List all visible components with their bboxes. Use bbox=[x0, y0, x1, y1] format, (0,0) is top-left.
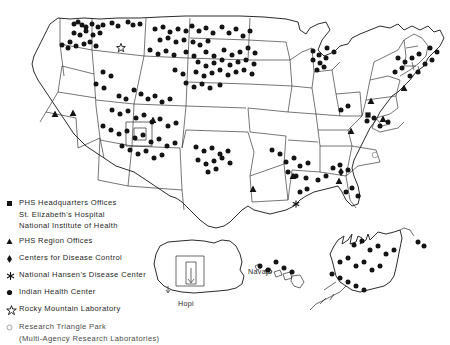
marker-indian-health-center bbox=[350, 186, 355, 191]
marker-indian-health-center bbox=[165, 144, 170, 149]
marker-indian-health-center bbox=[196, 158, 201, 163]
marker-indian-health-center bbox=[338, 276, 343, 281]
legend-label-hansens-disease-center: National Hansen's Disease Center bbox=[19, 270, 146, 281]
marker-indian-health-center bbox=[190, 24, 195, 29]
marker-indian-health-center bbox=[338, 163, 343, 168]
marker-indian-health-center bbox=[311, 49, 316, 54]
map-legend: PHS Headquarters Offices St. Elizabeth's… bbox=[6, 198, 196, 345]
marker-indian-health-center bbox=[311, 58, 316, 63]
marker-indian-health-center bbox=[191, 40, 196, 45]
marker-indian-health-center bbox=[202, 74, 207, 79]
marker-indian-health-center bbox=[84, 29, 89, 34]
marker-research-triangle-park bbox=[372, 152, 378, 158]
marker-indian-health-center bbox=[196, 60, 201, 65]
marker-indian-health-center bbox=[428, 46, 433, 51]
legend-item-phs-headquarters: PHS Headquarters Offices bbox=[6, 198, 196, 209]
marker-indian-health-center bbox=[315, 68, 320, 73]
circle-icon bbox=[6, 322, 19, 331]
marker-indian-health-center bbox=[164, 49, 169, 54]
marker-indian-health-center bbox=[94, 44, 99, 49]
marker-indian-health-center bbox=[278, 152, 283, 157]
marker-indian-health-center bbox=[128, 148, 133, 153]
marker-indian-health-center bbox=[212, 54, 217, 59]
marker-indian-health-center bbox=[354, 264, 359, 269]
marker-indian-health-center bbox=[66, 46, 71, 51]
marker-indian-health-center bbox=[192, 85, 197, 90]
marker-indian-health-center bbox=[346, 280, 351, 285]
marker-indian-health-center bbox=[253, 51, 258, 56]
marker-indian-health-center bbox=[244, 58, 249, 63]
legend-item-cdc: Centers for Disease Control bbox=[6, 253, 196, 264]
marker-indian-health-center bbox=[82, 42, 87, 47]
marker-phs-region-office bbox=[52, 111, 59, 117]
marker-indian-health-center bbox=[346, 168, 351, 173]
marker-indian-health-center bbox=[270, 148, 275, 153]
marker-indian-health-center bbox=[214, 167, 219, 172]
marker-indian-health-center bbox=[125, 129, 130, 134]
marker-indian-health-center bbox=[157, 137, 162, 142]
legend-label-cdc: Centers for Disease Control bbox=[19, 253, 122, 264]
marker-indian-health-center bbox=[242, 68, 247, 73]
marker-indian-health-center bbox=[324, 174, 329, 179]
marker-indian-health-center bbox=[384, 252, 389, 257]
marker-indian-health-center bbox=[248, 29, 253, 34]
marker-indian-health-center bbox=[403, 60, 408, 65]
marker-indian-health-center bbox=[96, 25, 101, 30]
marker-indian-health-center bbox=[227, 31, 232, 36]
marker-indian-health-center bbox=[344, 190, 349, 195]
marker-indian-health-center bbox=[173, 141, 178, 146]
marker-indian-health-center bbox=[110, 21, 115, 26]
marker-indian-health-center bbox=[78, 33, 83, 38]
legend-item-indian-health-center: Indian Health Center bbox=[6, 287, 196, 298]
marker-indian-health-center bbox=[141, 133, 146, 138]
marker-indian-health-center bbox=[168, 30, 173, 35]
marker-indian-health-center bbox=[204, 64, 209, 69]
marker-indian-health-center bbox=[211, 31, 216, 36]
asterisk-icon bbox=[6, 270, 19, 281]
legend-item-phs-region-offices: PHS Region Offices bbox=[6, 236, 196, 247]
marker-indian-health-center bbox=[352, 243, 357, 248]
legend-label-phs-headquarters: PHS Headquarters Offices bbox=[19, 198, 117, 209]
marker-indian-health-center bbox=[356, 194, 361, 199]
marker-indian-health-center bbox=[220, 25, 225, 30]
marker-indian-health-center bbox=[212, 159, 217, 164]
marker-indian-health-center bbox=[118, 112, 123, 117]
marker-indian-health-center bbox=[241, 34, 246, 39]
marker-indian-health-center bbox=[286, 170, 291, 175]
marker-indian-health-center bbox=[226, 73, 231, 78]
marker-indian-health-center bbox=[194, 145, 199, 150]
square-icon bbox=[6, 198, 19, 207]
marker-indian-health-center bbox=[220, 58, 225, 63]
marker-indian-health-center bbox=[331, 166, 336, 171]
marker-indian-health-center bbox=[160, 153, 165, 158]
marker-indian-health-center bbox=[160, 100, 165, 105]
marker-indian-health-center bbox=[218, 68, 223, 73]
legend-item-research-triangle-park: Research Triangle Park bbox=[6, 322, 196, 333]
marker-indian-health-center bbox=[210, 71, 215, 76]
marker-indian-health-center bbox=[393, 70, 398, 75]
marker-indian-health-center bbox=[94, 82, 99, 87]
marker-indian-health-center bbox=[258, 264, 263, 269]
marker-indian-health-center bbox=[153, 27, 158, 32]
marker-indian-health-center bbox=[228, 63, 233, 68]
marker-indian-health-center bbox=[226, 149, 231, 154]
marker-indian-health-center bbox=[192, 54, 197, 59]
marker-indian-health-center bbox=[210, 146, 215, 151]
marker-indian-health-center bbox=[204, 162, 209, 167]
marker-indian-health-center bbox=[197, 29, 202, 34]
marker-indian-health-center bbox=[144, 149, 149, 154]
diamond-icon bbox=[6, 253, 19, 264]
marker-indian-health-center bbox=[396, 56, 401, 61]
marker-indian-health-center bbox=[234, 27, 239, 32]
marker-indian-health-center bbox=[222, 48, 227, 53]
marker-indian-health-center bbox=[136, 152, 141, 157]
marker-indian-health-center bbox=[202, 149, 207, 154]
marker-indian-health-center bbox=[91, 33, 96, 38]
marker-indian-health-center bbox=[174, 40, 179, 45]
marker-indian-health-center bbox=[282, 266, 287, 271]
marker-indian-health-center bbox=[146, 97, 151, 102]
marker-indian-health-center bbox=[158, 117, 163, 122]
marker-indian-health-center bbox=[339, 108, 344, 113]
marker-indian-health-center bbox=[376, 244, 381, 249]
legend-item-hansens-disease-center: National Hansen's Disease Center bbox=[6, 270, 196, 281]
